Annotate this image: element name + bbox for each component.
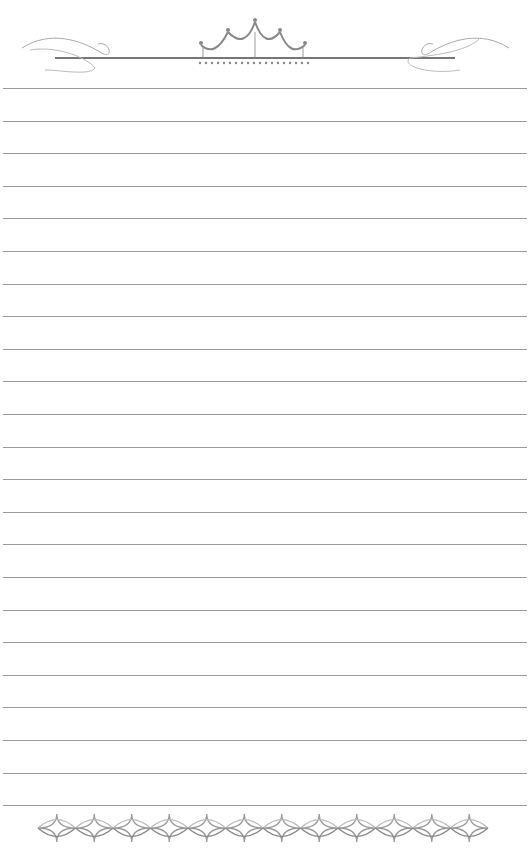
ruled-line [3, 284, 527, 285]
ruled-line [3, 610, 527, 611]
ruled-line [3, 316, 527, 317]
ruled-line [3, 707, 527, 708]
footer-ornament [0, 806, 531, 856]
ruled-line [3, 153, 527, 154]
ruled-line [3, 88, 527, 89]
ruled-line [3, 218, 527, 219]
ruled-line [3, 675, 527, 676]
ruled-line [3, 773, 527, 774]
ruled-line [3, 544, 527, 545]
ruled-line [3, 577, 527, 578]
ruled-line [3, 447, 527, 448]
ruled-line [3, 642, 527, 643]
diamond-chain-icon [0, 806, 531, 856]
ruled-line [3, 349, 527, 350]
ruled-line [3, 381, 527, 382]
ruled-line [3, 512, 527, 513]
crown-flourish-icon [0, 0, 531, 80]
ruled-line [3, 186, 527, 187]
header-ornament [0, 0, 531, 80]
ruled-line [3, 414, 527, 415]
ruled-line [3, 479, 527, 480]
ruled-line [3, 251, 527, 252]
ruled-line [3, 121, 527, 122]
ruled-line [3, 740, 527, 741]
